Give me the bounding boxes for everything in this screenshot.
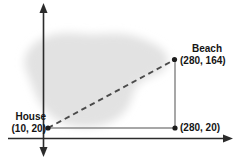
beach-label-coords: (280, 164)	[180, 55, 226, 67]
house-label-name: House	[0, 111, 46, 123]
house-label: House (10, 20)	[0, 111, 46, 134]
y-axis-arrow-down	[40, 147, 48, 157]
corner-label-coords: (280, 20)	[180, 122, 220, 134]
diagram-canvas	[0, 0, 236, 158]
corner-label: (280, 20)	[180, 122, 220, 134]
point-beach	[172, 57, 177, 62]
point-corner	[172, 125, 177, 130]
gray-blob-region	[25, 33, 168, 127]
beach-label-name: Beach	[180, 43, 226, 55]
coordinate-diagram: Beach (280, 164) House (10, 20) (280, 20…	[0, 0, 236, 158]
point-house	[45, 125, 50, 130]
beach-label: Beach (280, 164)	[180, 43, 226, 66]
y-axis-arrow-up	[40, 3, 48, 13]
house-label-coords: (10, 20)	[0, 123, 46, 135]
x-axis-arrow-right	[223, 134, 233, 142]
